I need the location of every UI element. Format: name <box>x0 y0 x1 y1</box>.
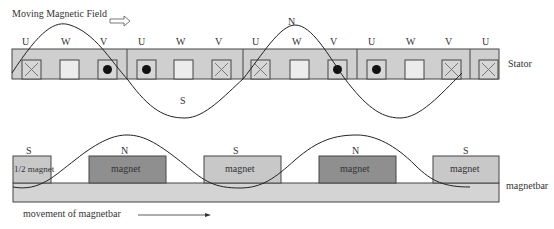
magnetbar-label: magnetbar <box>506 181 548 191</box>
slot-empty <box>174 60 193 79</box>
slot-cross-icon <box>22 60 41 79</box>
phase-label: W <box>406 37 415 47</box>
slot-empty <box>405 60 424 79</box>
field-south-label: S <box>180 96 186 106</box>
slot-empty <box>290 60 309 79</box>
slot-dot-icon <box>328 60 347 79</box>
stator-label: Stator <box>508 59 532 69</box>
magnet-label: magnet <box>225 164 254 174</box>
movement-arrow-icon <box>138 213 211 217</box>
slot-cross-icon <box>479 60 498 79</box>
magnet-pole-label: S <box>463 146 469 156</box>
magnet-pole-label: N <box>352 146 359 156</box>
field-north-label: N <box>288 17 295 27</box>
phase-label: V <box>215 37 222 47</box>
magnet-pole-label: S <box>26 146 32 156</box>
field-direction-arrow-icon <box>110 16 130 26</box>
slot-dot-icon <box>367 60 386 79</box>
slot-dot-icon <box>137 60 156 79</box>
diagram-title: Moving Magnetic Field <box>12 9 107 19</box>
magnet-label: magnet <box>340 164 369 174</box>
phase-label: U <box>368 37 375 47</box>
magnet-label: magnet <box>111 164 140 174</box>
phase-label: W <box>61 37 70 47</box>
slot-cross-icon <box>442 60 461 79</box>
motor-diagram <box>0 0 554 229</box>
slot-cross-icon <box>212 60 231 79</box>
phase-label: W <box>292 37 301 47</box>
phase-label: W <box>176 37 185 47</box>
phase-label: U <box>482 37 489 47</box>
magnet-label: magnet <box>450 164 479 174</box>
phase-label: V <box>330 37 337 47</box>
phase-label: V <box>100 37 107 47</box>
magnetbar <box>13 156 499 202</box>
movement-label: movement of magnetbar <box>23 209 121 219</box>
slot-empty <box>60 60 79 79</box>
phase-label: U <box>22 37 29 47</box>
phase-label: U <box>138 37 145 47</box>
phase-label: V <box>445 37 452 47</box>
magnet-pole-label: S <box>233 146 239 156</box>
slot-cross-icon <box>251 60 270 79</box>
magnet-pole-label: N <box>121 146 128 156</box>
magnet-label: 1/2 magnet <box>14 165 54 174</box>
phase-label: U <box>252 37 259 47</box>
